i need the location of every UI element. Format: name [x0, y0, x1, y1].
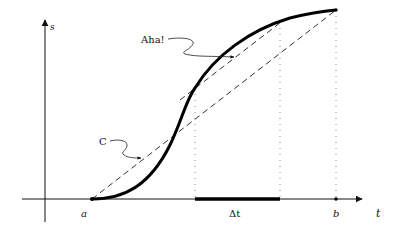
delta-t-label: Δt — [229, 208, 240, 219]
point-a — [90, 197, 94, 201]
secant-annotation-arrow — [110, 140, 141, 158]
secant-annotation-label: C — [99, 136, 107, 147]
diagram-canvas: s t Δt a b Aha! C — [0, 0, 401, 230]
point-b-label: b — [333, 208, 339, 219]
x-axis-label: t — [376, 207, 381, 220]
point-a-label: a — [81, 208, 87, 219]
mean-value-diagram: s t Δt a b Aha! C — [0, 0, 401, 230]
point-b — [334, 197, 338, 201]
secant-line — [92, 10, 336, 199]
tangent-annotation-label: Aha! — [140, 34, 165, 45]
y-axis-label: s — [50, 22, 55, 32]
point-b-curve — [335, 9, 338, 12]
